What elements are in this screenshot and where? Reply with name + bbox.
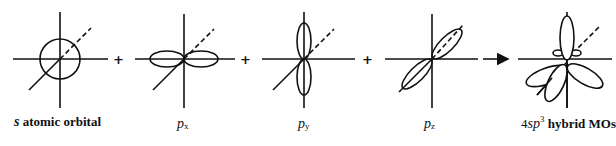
- label-subscript: z: [431, 121, 435, 131]
- px-orbital-panel: [135, 14, 235, 108]
- z-axis-solid: [399, 59, 432, 92]
- label-italic: p: [298, 116, 305, 131]
- label-text: atomic orbital: [19, 114, 101, 129]
- label-subscript: x: [184, 121, 189, 131]
- sp3-hybrid-panel: [518, 12, 612, 108]
- py-orbital-panel: [262, 12, 355, 108]
- plus-sign: +: [362, 52, 373, 67]
- label-py: py: [298, 116, 310, 132]
- z-axis-dashed: [184, 29, 214, 59]
- label-pz: pz: [424, 116, 435, 132]
- pz-orbital-panel: [385, 14, 478, 108]
- label-italic: p: [177, 116, 184, 131]
- plus-sign: +: [240, 52, 251, 67]
- label-text: hybrid MOs: [544, 116, 616, 131]
- hybrid-lobe-up: [560, 16, 574, 60]
- label-s-orbital: s atomic orbital: [14, 114, 101, 130]
- z-axis-dashed: [60, 28, 91, 59]
- label-px: px: [177, 116, 189, 132]
- hybrid-lobe-right: [564, 59, 607, 93]
- plus-sign: +: [113, 52, 124, 67]
- s-orbital-panel: [13, 12, 108, 108]
- label-subscript: y: [305, 121, 310, 131]
- label-italic: p: [424, 116, 431, 131]
- z-axis-solid: [29, 59, 60, 90]
- label-sp3-hybrid: 4sp3 hybrid MOs: [521, 114, 616, 132]
- label-italic: sp: [528, 116, 540, 131]
